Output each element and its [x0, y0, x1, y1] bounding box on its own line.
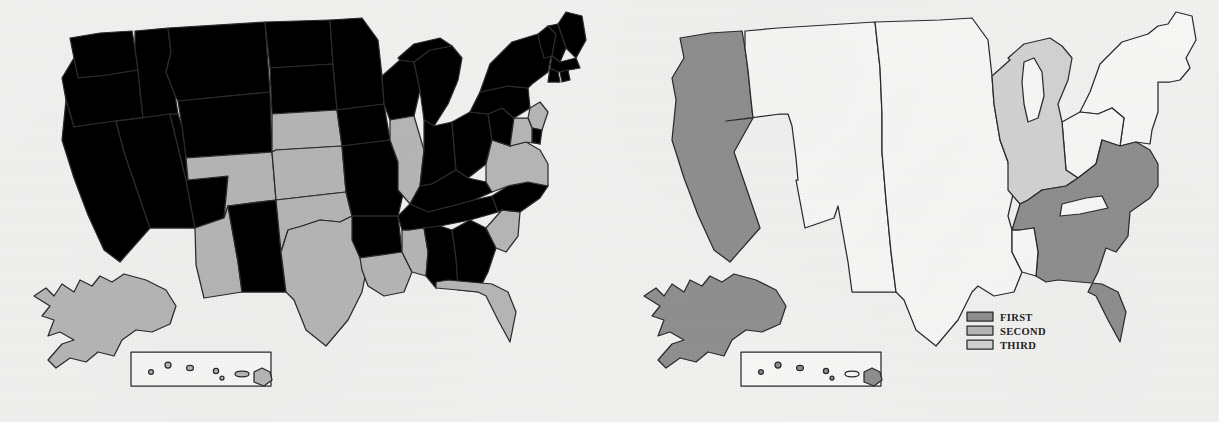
legend-label-second: SECOND: [1000, 326, 1046, 337]
legend-item-second[interactable]: SECOND: [967, 326, 1046, 337]
region-interior-west[interactable]: [726, 22, 896, 292]
legend-item-first[interactable]: FIRST: [967, 312, 1033, 323]
state-kansas[interactable]: [272, 146, 346, 200]
map-legend: FIRSTSECONDTHIRD: [967, 312, 1046, 351]
state-rhode-island[interactable]: [560, 70, 570, 82]
legend-label-first: FIRST: [1000, 312, 1033, 323]
legend-swatch-first: [967, 312, 993, 321]
state-minnesota[interactable]: [330, 18, 384, 110]
right-map-svg: FIRSTSECONDTHIRD: [610, 0, 1219, 422]
state-louisiana[interactable]: [360, 252, 412, 296]
state-montana[interactable]: [166, 22, 270, 101]
legend-item-third[interactable]: THIRD: [967, 340, 1036, 351]
state-michigan[interactable]: [414, 46, 462, 126]
state-north-dakota[interactable]: [265, 20, 333, 68]
state-florida[interactable]: [436, 280, 516, 342]
legend-swatch-third: [967, 340, 993, 349]
state-wisconsin[interactable]: [382, 60, 420, 120]
right-map-panel: FIRSTSECONDTHIRD: [610, 0, 1219, 422]
state-delaware[interactable]: [532, 128, 542, 144]
state-virginia[interactable]: [486, 140, 548, 192]
state-south-dakota[interactable]: [270, 64, 337, 114]
state-nebraska[interactable]: [272, 110, 342, 152]
left-map-svg: [0, 0, 609, 422]
legend-swatch-second: [967, 326, 993, 335]
region-central-plains[interactable]: [875, 18, 1022, 346]
inset-hawaii-right[interactable]: [741, 352, 882, 386]
state-washington[interactable]: [70, 31, 138, 78]
state-wyoming[interactable]: [178, 92, 272, 158]
legend-label-third: THIRD: [1000, 340, 1036, 351]
state-iowa[interactable]: [337, 104, 390, 146]
inset-hawaii-left[interactable]: [131, 352, 272, 386]
state-arkansas[interactable]: [352, 216, 402, 258]
left-map-panel: [0, 0, 609, 422]
